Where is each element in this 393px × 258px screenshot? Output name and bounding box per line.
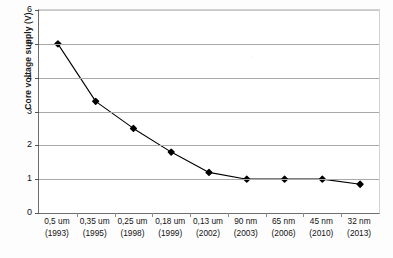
x-tick-label-node: 45 nm: [310, 216, 333, 226]
data-point-32-nm: [357, 181, 363, 187]
x-tick-label-node: 90 nm: [234, 216, 257, 226]
gridline-y-5: [39, 44, 379, 45]
x-tick-label-node: 0,25 um: [117, 216, 147, 226]
x-tick-label-32-nm: 32 nm(2013): [347, 216, 371, 239]
y-tick-mark-3: [35, 112, 39, 113]
y-tick-label-5: 5: [14, 38, 36, 48]
y-tick-label-1: 1: [14, 173, 36, 183]
x-tick-label-node: 0,13 um: [193, 216, 223, 226]
chart-figure: Core voltage supply (V) 0123456 0,5 um(1…: [0, 0, 393, 258]
y-tick-mark-5: [35, 44, 39, 45]
x-tick-label-year: (1999): [155, 228, 185, 240]
x-tick-label-90-nm: 90 nm(2003): [234, 216, 258, 239]
y-tick-label-4: 4: [14, 72, 36, 82]
y-tick-mark-4: [35, 78, 39, 79]
x-tick-label-year: (1993): [44, 228, 69, 240]
series-polyline: [58, 44, 360, 184]
data-point-0-18-um: [168, 149, 174, 155]
y-axis-tick-labels: 0123456: [14, 0, 36, 258]
x-axis-tick-labels: 0,5 um(1993)0,35 um(1995)0,25 um(1998)0,…: [38, 216, 379, 256]
x-tick-label-65-nm: 65 nm(2006): [272, 216, 296, 239]
gridline-y-2: [39, 145, 379, 146]
plot-area: [38, 9, 380, 214]
y-tick-mark-6: [35, 10, 39, 11]
x-tick-label-0-25-um: 0,25 um(1998): [117, 216, 147, 239]
x-tick-label-year: (2013): [347, 228, 371, 240]
y-tick-mark-2: [35, 145, 39, 146]
y-tick-label-2: 2: [14, 139, 36, 149]
y-tick-label-0: 0: [14, 207, 36, 217]
x-tick-label-year: (1998): [117, 228, 147, 240]
gridline-y-4: [39, 78, 379, 79]
gridline-y-3: [39, 112, 379, 113]
x-tick-label-node: 0,5 um: [44, 216, 69, 226]
x-tick-label-year: (2003): [234, 228, 258, 240]
x-tick-label-node: 0,35 um: [80, 216, 110, 226]
x-tick-label-0-5-um: 0,5 um(1993): [44, 216, 69, 239]
x-tick-label-node: 32 nm: [348, 216, 371, 226]
x-tick-label-year: (2002): [193, 228, 223, 240]
x-tick-label-year: (2010): [309, 228, 333, 240]
x-tick-label-0-35-um: 0,35 um(1995): [80, 216, 110, 239]
data-point-0-13-um: [206, 170, 212, 176]
y-tick-mark-1: [35, 179, 39, 180]
y-tick-label-3: 3: [14, 106, 36, 116]
gridline-y-6: [39, 10, 379, 11]
x-tick-label-node: 0,18 um: [155, 216, 185, 226]
x-tick-label-year: (2006): [272, 228, 296, 240]
x-tick-label-year: (1995): [80, 228, 110, 240]
x-tick-label-node: 65 nm: [272, 216, 295, 226]
y-tick-label-6: 6: [14, 4, 36, 14]
x-tick-label-0-13-um: 0,13 um(2002): [193, 216, 223, 239]
x-tick-label-45-nm: 45 nm(2010): [309, 216, 333, 239]
x-tick-label-0-18-um: 0,18 um(1999): [155, 216, 185, 239]
y-tick-mark-0: [35, 213, 39, 214]
gridline-y-1: [39, 179, 379, 180]
